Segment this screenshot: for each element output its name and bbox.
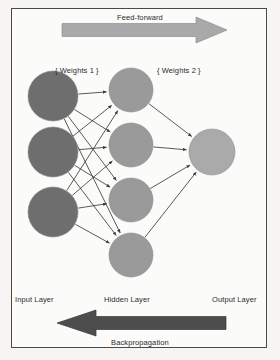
input-layer-nodes: [28, 71, 78, 237]
edge-input2-to-hidden1: [73, 105, 112, 136]
edge-input2-to-hidden3: [75, 165, 110, 187]
neural-network-diagram-page: Feed-forward { Weights 1 } { Weights 2 }…: [0, 0, 280, 360]
neuron-output-1: [189, 129, 235, 175]
neuron-input-2: [28, 127, 78, 177]
edge-hidden2-to-output1: [153, 147, 186, 150]
edges-hidden-to-output: [145, 104, 196, 238]
edge-hidden3-to-output1: [150, 165, 190, 189]
input-layer-label: Input Layer: [15, 295, 54, 304]
backpropagation-label: Backpropagation: [0, 338, 280, 347]
neuron-hidden-2: [109, 123, 153, 167]
weights-2-label: { Weights 2 }: [157, 66, 201, 75]
neuron-hidden-1: [109, 68, 153, 112]
neuron-hidden-3: [109, 178, 153, 222]
edge-input3-to-hidden2: [72, 161, 112, 195]
edge-input1-to-hidden1: [78, 92, 106, 94]
neuron-input-1: [28, 71, 78, 121]
output-layer-label: Output Layer: [212, 295, 257, 304]
network-graphic: [0, 0, 280, 360]
neuron-hidden-4: [109, 233, 153, 277]
hidden-layer-label: Hidden Layer: [104, 295, 150, 304]
feed-forward-label: Feed-forward: [0, 13, 280, 22]
hidden-layer-nodes: [109, 68, 153, 277]
backpropagation-arrow-shape: [57, 310, 226, 336]
edge-input3-to-hidden4: [75, 224, 109, 243]
weights-1-label: { Weights 1 }: [55, 66, 99, 75]
backpropagation-arrow: [57, 310, 226, 336]
edge-hidden1-to-output1: [149, 104, 192, 137]
neuron-input-3: [28, 187, 78, 237]
output-layer-nodes: [189, 129, 235, 175]
